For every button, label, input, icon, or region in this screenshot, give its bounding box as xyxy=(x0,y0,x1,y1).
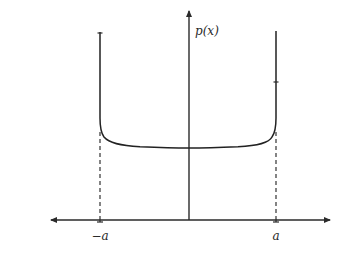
density-curve xyxy=(100,31,276,148)
x-tick-label-a: a xyxy=(272,229,279,243)
y-axis-label: p(x) xyxy=(195,24,219,38)
arcsine-density-plot: p(x) −a a xyxy=(0,0,358,257)
x-tick-label-minus-a: −a xyxy=(91,229,108,243)
